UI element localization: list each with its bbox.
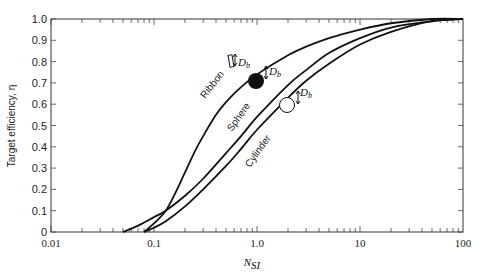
x-tick-label: 100	[455, 237, 472, 249]
plot-frame	[51, 19, 463, 232]
y-tick-label: 0.6	[32, 98, 47, 110]
y-tick-label: 0.3	[32, 162, 47, 174]
x-tick-label: 0.1	[147, 237, 161, 249]
y-tick-label: 0.9	[32, 34, 47, 46]
y-tick-label: 0.8	[32, 56, 47, 68]
sphere-shape-icon	[248, 73, 264, 89]
y-axis-label: Target efficiency, η	[6, 85, 17, 167]
ribbon-label: Ribbon	[198, 68, 226, 100]
cylinder-shape-icon	[280, 98, 295, 113]
curve-annotations: RibbonSphereCylinderDbDbDb	[198, 54, 312, 169]
ribbon-dimension-arrow	[233, 54, 237, 66]
curve-cylinder	[144, 19, 463, 232]
x-tick-label: 0.01	[41, 237, 60, 249]
y-tick-label: 0.7	[32, 77, 47, 89]
x-axis-ticks: 0.010.11.010100	[41, 19, 471, 249]
y-tick-label: 0.1	[32, 205, 47, 217]
ribbon-db-label: Db	[237, 56, 250, 70]
x-tick-label: 1.0	[250, 237, 264, 249]
y-tick-label: 0.2	[32, 183, 47, 195]
efficiency-chart: 00.10.20.30.40.50.60.70.80.91.0 0.010.11…	[0, 0, 487, 274]
cylinder-label: Cylinder	[243, 132, 273, 169]
x-tick-label: 10	[355, 237, 367, 249]
data-curves	[123, 19, 463, 232]
y-tick-label: 0.4	[32, 141, 47, 153]
cylinder-db-label: Db	[299, 86, 312, 100]
y-axis-ticks: 00.10.20.30.40.50.60.70.80.91.0	[32, 13, 463, 238]
sphere-db-label: Db	[268, 65, 281, 79]
y-tick-label: 1.0	[32, 13, 47, 25]
sphere-dimension-arrow	[264, 66, 268, 79]
x-axis-label: NSI	[243, 256, 262, 271]
y-tick-label: 0.5	[32, 120, 47, 132]
curve-sphere	[123, 19, 463, 232]
